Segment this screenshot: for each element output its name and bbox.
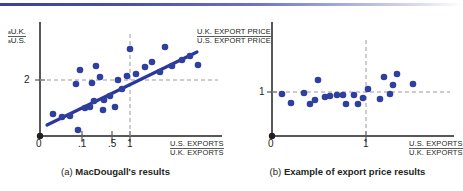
- data-point: [360, 95, 367, 102]
- data-point: [162, 44, 169, 51]
- data-point: [410, 81, 417, 88]
- data-point: [115, 77, 122, 84]
- data-point: [169, 63, 176, 70]
- x-tick-label-point5-a: .5: [108, 138, 116, 149]
- data-point: [75, 127, 82, 134]
- y-axis-denominator-b: U.S. EXPORT PRICE: [197, 37, 271, 45]
- data-point: [279, 91, 286, 98]
- x-axis-label-a: U.S. EXPORTS U.K. EXPORTS: [170, 140, 224, 157]
- data-point: [355, 101, 362, 108]
- scatter-points-b: [279, 71, 417, 108]
- data-point: [381, 74, 388, 81]
- x-axis-denominator-b: U.K. EXPORTS: [409, 149, 463, 157]
- caption-tag-a: (a): [61, 166, 73, 177]
- y-tick-label-2-a: 2: [24, 74, 30, 85]
- x-tick-label-point1-a: .1: [78, 138, 86, 149]
- x-axis-label-b: U.S. EXPORTS U.K. EXPORTS: [409, 140, 463, 157]
- x-tick-label-0-b: 0: [268, 138, 274, 149]
- data-point: [351, 92, 358, 99]
- y-axis-label-a: aU.K. aU.S.: [8, 28, 26, 46]
- data-point: [50, 111, 57, 118]
- data-point: [377, 96, 384, 103]
- x-axis-denominator-a: U.K. EXPORTS: [170, 149, 224, 157]
- caption-a: (a) MacDougall's results: [0, 166, 231, 177]
- y-axis-denominator-text-a: U.S.: [11, 36, 26, 45]
- data-point: [157, 69, 164, 76]
- data-point: [312, 97, 319, 104]
- data-point: [149, 59, 156, 66]
- data-point: [127, 46, 134, 53]
- decorative-top-rule: [0, 3, 463, 6]
- caption-b: (b) Example of export price results: [232, 166, 463, 177]
- data-point: [107, 93, 114, 100]
- data-point: [315, 77, 322, 84]
- data-point: [73, 81, 80, 88]
- data-point: [77, 67, 84, 74]
- data-point: [101, 97, 108, 104]
- data-point: [124, 73, 131, 80]
- data-point: [142, 64, 149, 71]
- caption-tag-b: (b): [270, 166, 282, 177]
- data-point: [343, 101, 350, 108]
- data-point: [288, 100, 295, 107]
- data-point: [394, 71, 401, 78]
- caption-text-b: Example of export price results: [284, 166, 426, 177]
- data-point: [327, 93, 334, 100]
- data-point: [93, 63, 100, 70]
- data-point: [100, 107, 107, 114]
- caption-text-a: MacDougall's results: [75, 166, 170, 177]
- y-axis-label-b: U.K. EXPORT PRICE U.S. EXPORT PRICE: [197, 28, 271, 45]
- data-point: [89, 80, 96, 87]
- x-tick-label-0-a: 0: [36, 138, 42, 149]
- data-point: [387, 91, 394, 98]
- y-axis-denominator-a: aU.S.: [8, 37, 26, 45]
- data-point: [195, 62, 202, 69]
- x-tick-label-1-b: 1: [363, 138, 369, 149]
- data-point: [91, 98, 98, 105]
- data-point: [119, 86, 126, 93]
- data-point: [179, 57, 186, 64]
- data-point: [112, 104, 119, 111]
- panel-export-price-results: U.K. EXPORT PRICE U.S. EXPORT PRICE U.S.…: [232, 14, 463, 191]
- data-point: [187, 53, 194, 60]
- data-point: [87, 104, 94, 111]
- data-point: [67, 113, 74, 120]
- data-point: [365, 86, 372, 93]
- data-point: [334, 92, 341, 99]
- data-point: [301, 90, 308, 97]
- data-point: [390, 82, 397, 89]
- data-point: [59, 114, 66, 121]
- data-point: [133, 71, 140, 78]
- x-tick-label-1-a: 1: [127, 138, 133, 149]
- data-point: [340, 92, 347, 99]
- data-point: [97, 74, 104, 81]
- y-axis-numerator-text-a: U.K.: [11, 27, 26, 36]
- figure-root: aU.K. aU.S. U.S. EXPORTS U.K. EXPORTS 0 …: [0, 0, 463, 191]
- y-tick-label-1-b: 1: [259, 86, 265, 97]
